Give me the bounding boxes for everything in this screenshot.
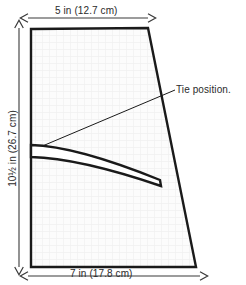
diagram-canvas [0,0,246,285]
dimension-label-top: 5 in (12.7 cm) [55,5,118,16]
tie-position-label: Tie position. [176,84,231,95]
dimension-label-left: 10½ in (26.7 cm) [7,94,18,204]
sewing-pattern-diagram: 5 in (12.7 cm) 7 in (17.8 cm) 10½ in (26… [0,0,246,285]
dimension-label-bottom: 7 in (17.8 cm) [70,268,133,279]
